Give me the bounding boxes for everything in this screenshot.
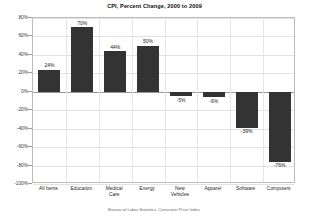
bar-group: 44% [99,18,132,182]
bar-group: 24% [33,18,66,182]
x-axis-tick-line: Energy [131,186,164,192]
bar[interactable] [203,92,225,98]
bar[interactable] [137,46,159,92]
x-axis-tick-line: All Items [32,186,65,192]
y-axis-tick-label: 20% [2,70,28,75]
bar-value-label: -5% [176,97,185,103]
bar-value-label: -76% [274,162,286,168]
x-axis-tick-line: Computers [262,186,295,192]
chart-figure: CPI, Percent Change, 2000 to 2009 80%60%… [0,0,309,224]
x-axis-tick-line: Care [98,192,131,198]
x-axis-tick-label: MedicalCare [98,186,131,199]
y-axis-tick-label: 40% [2,51,28,56]
y-axis-tick-label: -80% [2,162,28,167]
x-axis-tick-line: Vehicles [164,192,197,198]
bar-group: 50% [132,18,165,182]
source-note: Bureau of Labor Statistics, Consumer Pri… [0,207,309,212]
bar-group: -76% [263,18,296,182]
y-axis-tick-label: -40% [2,125,28,130]
bar[interactable] [104,51,126,92]
x-axis-tick-label: Apparel [196,186,229,192]
bar[interactable] [71,27,93,92]
y-axis-tick-label: 0% [2,88,28,93]
x-axis-tick-line: Apparel [196,186,229,192]
chart-title: CPI, Percent Change, 2000 to 2009 [0,3,309,9]
bar-value-label: 50% [143,38,153,44]
x-axis-tick-label: Software [229,186,262,192]
x-axis-tick-line: Education [65,186,98,192]
plot-area: 24%70%44%50%-5%-6%-39%-76% [32,17,295,183]
bar-value-label: 70% [77,20,87,26]
y-axis-tick-mark [28,183,32,184]
y-axis-tick-label: -100% [2,181,28,186]
x-axis-tick-label: NewVehicles [164,186,197,199]
x-axis-tick-label: All Items [32,186,65,192]
y-axis-tick-label: -20% [2,107,28,112]
bar-group: 70% [66,18,99,182]
x-axis-tick-label: Energy [131,186,164,192]
bar[interactable] [236,92,258,128]
x-axis-tick-label: Computers [262,186,295,192]
y-axis-tick-label: 80% [2,15,28,20]
bar-value-label: 44% [110,44,120,50]
bar-value-label: -39% [241,128,253,134]
gridline [33,184,294,185]
bar[interactable] [269,92,291,162]
bar-group: -39% [230,18,263,182]
bar-value-label: -6% [209,98,218,104]
y-axis-tick-label: -60% [2,144,28,149]
bar[interactable] [38,70,60,92]
x-axis-tick-label: Education [65,186,98,192]
bar-group: -6% [197,18,230,182]
bar[interactable] [170,92,192,97]
bar-group: -5% [165,18,198,182]
bar-value-label: 24% [44,62,54,68]
y-axis-tick-label: 60% [2,33,28,38]
x-axis-tick-line: Software [229,186,262,192]
